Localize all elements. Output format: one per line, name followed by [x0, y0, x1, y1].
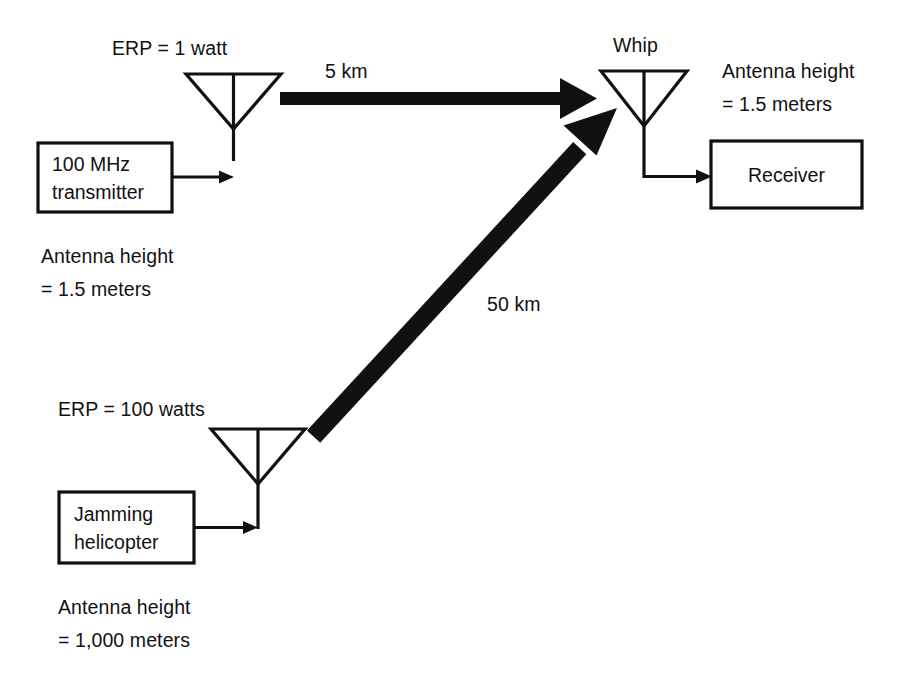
whip-antenna-label: Whip	[613, 32, 658, 59]
transmitter-erp-label: ERP = 1 watt	[112, 35, 227, 62]
transmitter-box-line-1: 100 MHz	[52, 150, 172, 178]
receiver-box-text: Receiver	[748, 161, 825, 189]
jamming-path-arrow	[307, 108, 617, 443]
transmitter-antenna-icon	[186, 74, 281, 161]
transmitter-feed-line	[172, 171, 234, 184]
jammer-box-line-2: helicopter	[74, 528, 194, 556]
receiver-box-label: Receiver	[711, 141, 862, 208]
signal-path-label: 5 km	[325, 58, 368, 85]
transmitter-box-line-2: transmitter	[52, 178, 172, 206]
jammer-erp-label: ERP = 100 watts	[58, 396, 205, 423]
transmitter-antenna-height-line-2: = 1.5 meters	[41, 276, 151, 303]
jammer-box-line-1: Jamming	[74, 500, 194, 528]
jamming-path-label: 50 km	[487, 291, 541, 318]
receiver-antenna-height-line-2: = 1.5 meters	[722, 91, 832, 118]
whip-antenna-icon	[601, 71, 687, 178]
jammer-feed-line	[194, 521, 258, 534]
receiver-antenna-height-line-1: Antenna height	[722, 58, 855, 85]
transmitter-antenna-height-line-1: Antenna height	[41, 243, 174, 270]
jammer-antenna-height-line-2: = 1,000 meters	[58, 627, 190, 654]
jammer-antenna-icon	[211, 429, 305, 529]
transmitter-box-label: 100 MHz transmitter	[52, 146, 172, 209]
receiver-feed-line	[644, 170, 712, 184]
jammer-box-label: Jamming helicopter	[74, 495, 194, 560]
jammer-antenna-height-line-1: Antenna height	[58, 594, 191, 621]
diagram-canvas: ERP = 1 watt 100 MHz transmitter Antenna…	[0, 0, 901, 679]
